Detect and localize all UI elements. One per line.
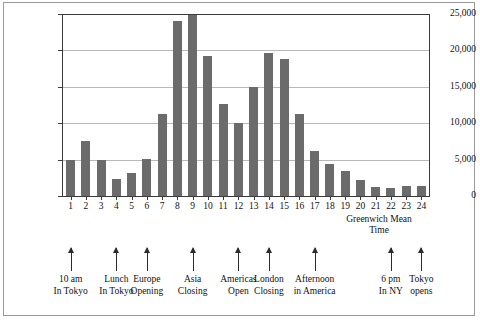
arrow-up-icon xyxy=(388,247,394,253)
gridline xyxy=(63,123,429,124)
arrow-up-icon xyxy=(190,247,196,253)
annotation-band: 10 amIn TokyoLunchIn TokyoEuropeOpeningA… xyxy=(4,248,476,315)
bar xyxy=(371,187,380,196)
gridline xyxy=(63,50,429,51)
y-axis-tick-label: 15,000 xyxy=(424,82,476,92)
arrow-up-icon xyxy=(235,247,241,253)
x-axis-tick xyxy=(315,196,316,200)
x-axis-tick xyxy=(299,196,300,200)
annotation-label: AsiaClosing xyxy=(178,274,208,297)
x-axis-tick xyxy=(132,196,133,200)
annotation-label-line2: in America xyxy=(294,286,336,298)
bar xyxy=(234,123,243,196)
annotation-label-line1: Afternoon xyxy=(294,274,336,286)
annotation-label-line1: Tokyo xyxy=(409,274,433,286)
y-axis-tick xyxy=(58,14,63,15)
x-axis-tick xyxy=(345,196,346,200)
annotation-label-line1: Europe xyxy=(131,274,164,286)
bar xyxy=(295,114,304,196)
x-axis-tick xyxy=(330,196,331,200)
bar xyxy=(142,159,151,196)
annotation-label-line1: Asia xyxy=(178,274,208,286)
bar xyxy=(310,151,319,196)
annotation-label-line2: In Tokyo xyxy=(53,286,87,298)
bar xyxy=(341,171,350,196)
arrow-up-icon xyxy=(312,247,318,253)
bar xyxy=(173,21,182,196)
x-axis-title-line1: Greenwich Mean xyxy=(346,214,412,224)
annotation-label-line2: opens xyxy=(409,286,433,298)
y-axis-tick-label: 0 xyxy=(424,191,476,201)
annotation-label-line2: In NY xyxy=(379,286,403,298)
x-axis-tick-label: 24 xyxy=(411,201,431,211)
annotation-label-line1: London xyxy=(254,274,284,286)
annotation-label-line2: Closing xyxy=(178,286,208,298)
annotation-label: 10 amIn Tokyo xyxy=(53,274,87,297)
bar xyxy=(280,59,289,196)
x-axis-tick xyxy=(406,196,407,200)
x-axis-title: Greenwich Mean Time xyxy=(304,214,454,236)
annotation-label-line1: 10 am xyxy=(53,274,87,286)
x-axis-tick xyxy=(116,196,117,200)
annotation-label: LondonClosing xyxy=(254,274,284,297)
chart-frame: Greenwich Mean Time 05,00010,00015,00020… xyxy=(3,2,475,316)
x-axis-tick xyxy=(193,196,194,200)
gridline xyxy=(63,87,429,88)
bar xyxy=(203,56,212,196)
x-axis-tick xyxy=(284,196,285,200)
y-axis-tick-label: 5,000 xyxy=(424,155,476,165)
bar xyxy=(127,173,136,196)
bar xyxy=(325,164,334,196)
x-axis-tick xyxy=(162,196,163,200)
x-axis-tick xyxy=(391,196,392,200)
y-axis-tick xyxy=(58,160,63,161)
gridline xyxy=(63,160,429,161)
bar xyxy=(66,160,75,196)
bar xyxy=(249,87,258,196)
x-axis-tick xyxy=(254,196,255,200)
plot-right-border xyxy=(429,14,430,197)
y-axis-tick-label: 20,000 xyxy=(424,45,476,55)
annotation-label-line2: Closing xyxy=(254,286,284,298)
x-axis-tick xyxy=(208,196,209,200)
y-axis-tick-label: 25,000 xyxy=(424,9,476,19)
x-axis-tick xyxy=(360,196,361,200)
bar xyxy=(264,53,273,196)
chart-plot-region: Greenwich Mean Time 05,00010,00015,00020… xyxy=(4,3,476,235)
x-axis-tick xyxy=(177,196,178,200)
bar xyxy=(188,14,197,196)
x-axis-tick xyxy=(376,196,377,200)
x-axis-tick xyxy=(238,196,239,200)
annotation-label: AmericasOpen xyxy=(220,274,256,297)
arrow-up-icon xyxy=(68,247,74,253)
bar xyxy=(219,104,228,196)
bar xyxy=(158,114,167,196)
annotation-label-line1: Americas xyxy=(220,274,256,286)
x-axis-title-line2: Time xyxy=(369,225,389,235)
bar xyxy=(386,188,395,196)
x-axis-tick xyxy=(71,196,72,200)
plot-area xyxy=(63,14,429,196)
x-axis-tick xyxy=(86,196,87,200)
annotation-label: 6 pmIn NY xyxy=(379,274,403,297)
x-axis-tick xyxy=(223,196,224,200)
x-axis-tick xyxy=(147,196,148,200)
bar xyxy=(356,180,365,196)
y-axis-line xyxy=(62,14,63,197)
y-axis-tick-label: 10,000 xyxy=(424,118,476,128)
bar xyxy=(112,179,121,196)
annotation-label: Tokyoopens xyxy=(409,274,433,297)
x-axis-tick xyxy=(101,196,102,200)
annotation-label-line2: Opening xyxy=(131,286,164,298)
y-axis-tick xyxy=(58,50,63,51)
y-axis-tick xyxy=(58,87,63,88)
bar xyxy=(97,160,106,196)
annotation-label: Afternoonin America xyxy=(294,274,336,297)
annotation-label-line1: Lunch xyxy=(99,274,133,286)
y-axis-tick xyxy=(58,123,63,124)
annotation-label: LunchIn Tokyo xyxy=(99,274,133,297)
x-axis-tick xyxy=(269,196,270,200)
annotation-label-line2: In Tokyo xyxy=(99,286,133,298)
annotation-label: EuropeOpening xyxy=(131,274,164,297)
bar xyxy=(81,141,90,196)
